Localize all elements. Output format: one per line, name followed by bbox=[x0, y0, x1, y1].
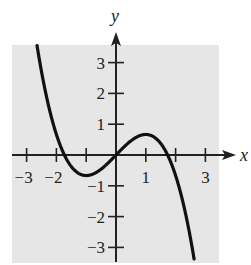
x-tick-label: −3 bbox=[15, 168, 33, 187]
y-tick-label: −2 bbox=[87, 208, 105, 227]
y-tick-label: −3 bbox=[87, 238, 105, 257]
x-tick-label: −2 bbox=[44, 168, 62, 187]
x-axis-label: x bbox=[239, 145, 248, 165]
x-tick-label: 1 bbox=[142, 168, 151, 187]
y-axis-label: y bbox=[109, 6, 119, 26]
y-tick-label: 2 bbox=[97, 84, 106, 103]
y-tick-label: 1 bbox=[97, 115, 106, 134]
y-tick-label: −1 bbox=[87, 177, 105, 196]
cubic-function-graph: −3−213−3−2−1123 x y bbox=[0, 0, 251, 265]
y-tick-label: 3 bbox=[97, 54, 106, 73]
x-tick-label: 3 bbox=[201, 168, 210, 187]
